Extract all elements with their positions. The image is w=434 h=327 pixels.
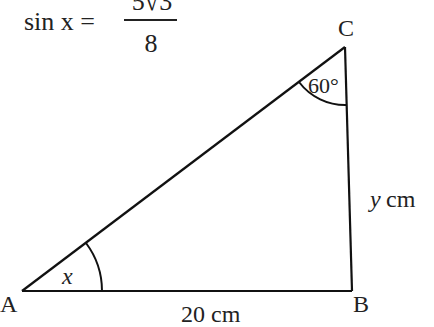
- side-ac: [22, 47, 345, 291]
- angle-a-arc: [86, 243, 102, 291]
- side-bc: [345, 47, 352, 291]
- side-bc-label: y cm: [368, 186, 416, 212]
- angle-a-label: x: [61, 263, 73, 289]
- equation-denominator: 8: [145, 29, 158, 58]
- vertex-c-label: C: [338, 15, 354, 41]
- equation-numerator: 5√3: [132, 0, 172, 16]
- triangle-sides: [22, 47, 352, 291]
- triangle-diagram: sin x = 5√3 8 A B C x 60° 20 cm y cm: [0, 0, 434, 327]
- vertex-a-label: A: [0, 291, 18, 317]
- side-bc-variable: y: [368, 186, 381, 212]
- vertex-b-label: B: [353, 291, 369, 317]
- sine-equation: sin x = 5√3 8: [24, 0, 177, 58]
- side-ab-label: 20 cm: [181, 301, 241, 327]
- side-bc-unit: cm: [386, 186, 416, 212]
- equation-lhs: sin x =: [24, 7, 95, 36]
- angle-c-label: 60°: [308, 73, 339, 98]
